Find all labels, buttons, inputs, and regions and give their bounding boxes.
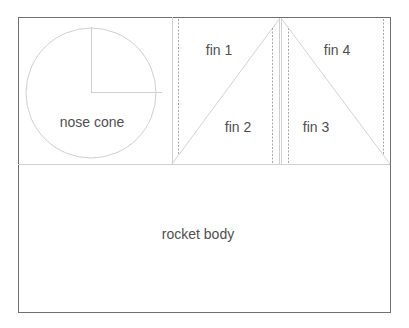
nose-cone-label: nose cone <box>60 115 125 129</box>
fin-3-label: fin 3 <box>303 120 329 134</box>
fin-diagonal-right <box>281 18 390 164</box>
rocket-body-label: rocket body <box>162 227 234 241</box>
fin-1-label: fin 1 <box>206 43 232 57</box>
fin-4-label: fin 4 <box>324 43 350 57</box>
fin-2-label: fin 2 <box>225 120 251 134</box>
fin-diagonal-left <box>172 18 280 164</box>
